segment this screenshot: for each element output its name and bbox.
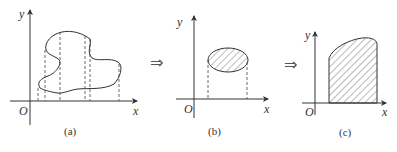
origin-label-c: O (305, 106, 314, 118)
y-axis-label-a: y (19, 8, 24, 20)
diagram-canvas (0, 0, 397, 152)
caption-c: (c) (339, 127, 351, 138)
y-axis-label-c: y (305, 29, 310, 41)
panel-c (302, 32, 386, 115)
caption-b: (b) (208, 126, 221, 137)
x-axis-label-b: x (264, 103, 269, 115)
panel-a (10, 10, 137, 125)
origin-label-b: O (184, 103, 193, 115)
x-axis-label-a: x (133, 105, 138, 117)
caption-a: (a) (64, 126, 76, 137)
x-axis-label-c: x (382, 106, 387, 118)
implies-arrow-icon: ⇒ (284, 57, 297, 73)
hatched-ellipse (208, 48, 248, 72)
projection-lines (38, 32, 119, 101)
origin-label-a: O (19, 105, 28, 117)
implies-arrow-icon: ⇒ (150, 55, 163, 71)
figure-area-decomposition: y O x (a) ⇒ y O x (b) ⇒ y O x (c) (0, 0, 397, 152)
y-axis-label-b: y (177, 16, 182, 28)
irregular-region (39, 31, 121, 93)
hatched-region-under-curve (329, 38, 377, 103)
